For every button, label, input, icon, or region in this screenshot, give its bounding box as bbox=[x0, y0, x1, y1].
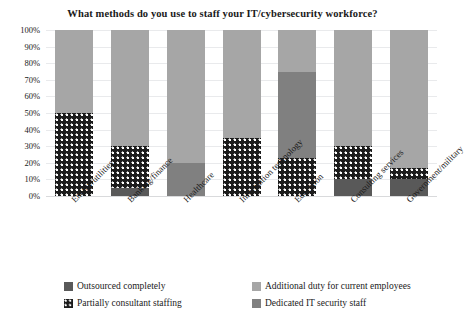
bar-segment-additional[interactable] bbox=[111, 30, 149, 146]
y-axis-tick-label: 30% bbox=[24, 142, 40, 151]
bar-banking-finance[interactable] bbox=[111, 30, 149, 196]
bar-energy-utilities[interactable] bbox=[55, 30, 93, 196]
legend-swatch-partial bbox=[64, 299, 73, 308]
bar-healthcare[interactable] bbox=[167, 30, 205, 196]
y-axis-tick-label: 50% bbox=[24, 109, 40, 118]
bar-segment-additional[interactable] bbox=[390, 30, 428, 168]
y-axis-tick-label: 90% bbox=[24, 43, 40, 52]
chart-legend: Outsourced completelyPartially consultan… bbox=[64, 281, 434, 315]
legend-swatch-outsourced bbox=[64, 282, 73, 291]
bar-segment-additional[interactable] bbox=[167, 30, 205, 163]
y-axis-tick-label: 100% bbox=[20, 26, 40, 35]
y-axis-tick-label: 40% bbox=[24, 126, 40, 135]
legend-item-dedicated[interactable]: Dedicated IT security staff bbox=[252, 298, 366, 308]
legend-item-partial[interactable]: Partially consultant staffing bbox=[64, 298, 182, 308]
y-axis-tick-label: 70% bbox=[24, 76, 40, 85]
legend-label: Partially consultant staffing bbox=[77, 298, 182, 308]
legend-swatch-dedicated bbox=[252, 299, 261, 308]
legend-swatch-additional bbox=[252, 282, 261, 291]
y-axis-tick-label: 0% bbox=[29, 192, 40, 201]
bar-segment-partial[interactable] bbox=[334, 146, 372, 179]
legend-label: Outsourced completely bbox=[77, 281, 165, 291]
bar-consulting-services[interactable] bbox=[334, 30, 372, 196]
y-axis-tick-label: 60% bbox=[24, 92, 40, 101]
bar-education[interactable] bbox=[278, 30, 316, 196]
x-axis-labels: Energy/utilitiesBanking/financeHealthcar… bbox=[46, 198, 437, 270]
bar-segment-additional[interactable] bbox=[223, 30, 261, 138]
bar-segment-additional[interactable] bbox=[334, 30, 372, 146]
y-axis-tick-label: 20% bbox=[24, 159, 40, 168]
legend-item-additional[interactable]: Additional duty for current employees bbox=[252, 281, 411, 291]
legend-label: Dedicated IT security staff bbox=[265, 298, 366, 308]
y-axis-tick-label: 10% bbox=[24, 175, 40, 184]
legend-label: Additional duty for current employees bbox=[265, 281, 411, 291]
y-axis-tick-label: 80% bbox=[24, 59, 40, 68]
y-axis: 0%10%20%30%40%50%60%70%80%90%100% bbox=[0, 30, 44, 196]
bar-government-military[interactable] bbox=[390, 30, 428, 196]
legend-item-outsourced[interactable]: Outsourced completely bbox=[64, 281, 165, 291]
bar-information-technology[interactable] bbox=[223, 30, 261, 196]
bar-segment-additional[interactable] bbox=[278, 30, 316, 72]
bar-segment-additional[interactable] bbox=[55, 30, 93, 113]
chart-title: What methods do you use to staff your IT… bbox=[0, 8, 445, 19]
